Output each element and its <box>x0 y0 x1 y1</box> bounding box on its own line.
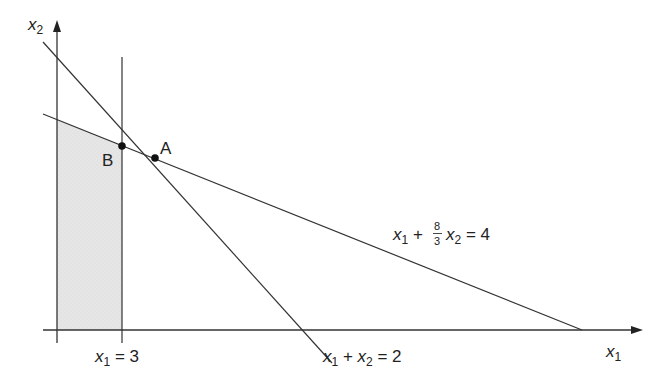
point-a <box>151 154 159 162</box>
constraint-label-x1-eq-3: x1 = 3 <box>94 347 139 369</box>
point-b <box>118 142 126 150</box>
svg-text:8: 8 <box>434 220 440 232</box>
y-axis-label: x2 <box>27 15 44 37</box>
y-axis-arrow-icon <box>53 20 61 32</box>
constraint-label-x1-plus-8-3-x2-eq-4: x1 + 8 3 x2 = 4 <box>392 220 490 247</box>
point-b-label: B <box>102 151 113 170</box>
x-axis-arrow-icon <box>631 326 643 334</box>
x-axis-label: x1 <box>605 342 622 364</box>
svg-text:x1 +: x1 + <box>392 225 423 247</box>
constraint-label-x1-plus-x2-eq-2: x1 + x2 = 2 <box>322 347 402 369</box>
lp-diagram: B A x2 x1 x1 = 3 x1 + x2 = 2 x1 + 8 3 x2… <box>0 0 650 388</box>
svg-text:3: 3 <box>434 235 440 247</box>
point-a-label: A <box>160 139 172 158</box>
svg-text:x2 = 4: x2 = 4 <box>445 225 490 247</box>
